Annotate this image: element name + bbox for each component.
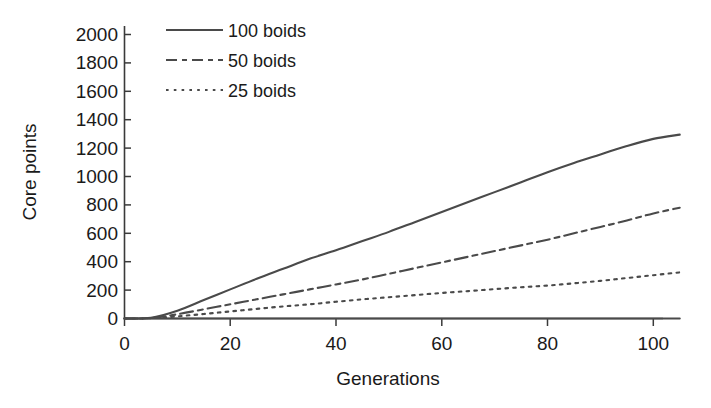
y-tick-label: 1600: [76, 81, 118, 102]
y-axis-title: Core points: [19, 123, 40, 220]
legend-label-100-boids: 100 boids: [228, 21, 306, 41]
y-tick-label: 200: [86, 280, 118, 301]
y-tick-label: 1000: [76, 166, 118, 187]
y-tick-label: 800: [86, 194, 118, 215]
y-tick-label: 1800: [76, 52, 118, 73]
y-tick-label: 0: [107, 308, 118, 329]
x-tick-label: 100: [637, 333, 669, 354]
y-tick-label: 600: [86, 223, 118, 244]
y-tick-label: 1200: [76, 138, 118, 159]
x-tick-label: 80: [537, 333, 558, 354]
y-tick-label: 400: [86, 251, 118, 272]
legend-label-25-boids: 25 boids: [228, 81, 296, 101]
x-tick-label: 20: [220, 333, 241, 354]
legend-label-50-boids: 50 boids: [228, 51, 296, 71]
x-tick-label: 0: [119, 333, 130, 354]
y-tick-label: 1400: [76, 109, 118, 130]
y-tick-label: 2000: [76, 24, 118, 45]
x-axis-title: Generations: [336, 368, 440, 389]
core-points-line-chart: 0 200 400 600 800 1000 1200 1400 1600 18…: [0, 0, 711, 408]
x-tick-label: 40: [325, 333, 346, 354]
x-tick-label: 60: [431, 333, 452, 354]
